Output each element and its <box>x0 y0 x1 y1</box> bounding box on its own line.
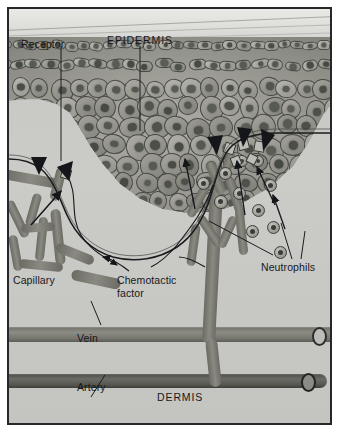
label-dermis: DERMIS <box>157 391 203 404</box>
illustration-canvas: Receptor EPIDERMIS Capillary Chemotactic… <box>9 9 330 423</box>
vein-leader <box>91 301 101 325</box>
label-vein: Vein <box>77 332 98 345</box>
movement-arrow <box>257 167 275 205</box>
migration-arrow <box>57 161 73 181</box>
annotation-overlay <box>9 9 330 423</box>
skin-inflammation-figure: Receptor EPIDERMIS Capillary Chemotactic… <box>0 0 339 432</box>
diapedesis-arrow <box>31 191 61 225</box>
movement-arrow <box>273 195 285 229</box>
neutrophils-leader <box>209 221 273 255</box>
label-receptor: Receptor <box>21 38 64 51</box>
migration-arrow <box>207 135 223 155</box>
chemotactic-curve <box>179 257 205 267</box>
label-neutrophils: Neutrophils <box>261 261 315 274</box>
label-chemotactic-factor: Chemotactic factor <box>117 274 176 299</box>
label-epidermis: EPIDERMIS <box>107 34 173 47</box>
movement-arrow <box>237 161 245 215</box>
neutrophils-leader <box>301 231 305 259</box>
neutrophils-leader <box>281 223 292 259</box>
figure-frame: Receptor EPIDERMIS Capillary Chemotactic… <box>7 7 332 425</box>
migration-arrow <box>261 129 275 151</box>
label-artery: Artery <box>77 381 106 394</box>
label-capillary: Capillary <box>13 274 55 287</box>
movement-arrow <box>185 159 195 209</box>
